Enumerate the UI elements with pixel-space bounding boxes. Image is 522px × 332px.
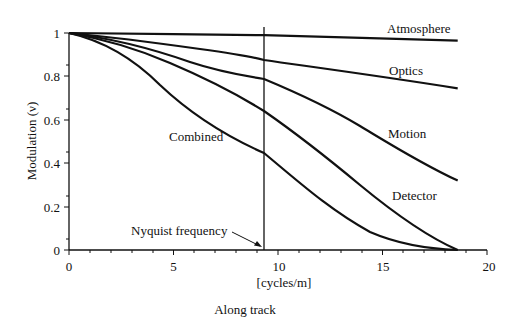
y-ticks	[64, 33, 69, 250]
x-tick-5: 5	[170, 259, 177, 274]
label-combined: Combined	[169, 129, 224, 144]
y-tick-0: 0	[54, 243, 61, 258]
y-axis-title: Modulation (ν)	[24, 102, 39, 180]
x-axis-title: [cycles/m]	[257, 275, 312, 290]
label-optics: Optics	[389, 63, 423, 78]
x-tick-10: 10	[273, 259, 286, 274]
y-tick-1: 1	[54, 26, 61, 41]
y-tick-0.6: 0.6	[44, 113, 61, 128]
x-tick-0: 0	[66, 259, 73, 274]
y-tick-0.4: 0.4	[44, 156, 61, 171]
label-atmosphere: Atmosphere	[387, 21, 451, 36]
x-tick-15: 15	[377, 259, 390, 274]
chart-caption: Along track	[214, 302, 276, 317]
y-tick-0.2: 0.2	[44, 200, 60, 215]
label-motion: Motion	[388, 126, 427, 141]
arrow-head-icon	[254, 241, 262, 247]
label-nyquist: Nyquist frequency	[131, 223, 228, 238]
x-tick-20: 20	[483, 259, 496, 274]
x-ticks	[69, 250, 487, 255]
modulation-chart: 0 0.2 0.4 0.6 0.8 1 0 5 10 15 20 [cycles…	[0, 0, 522, 332]
label-detector: Detector	[392, 188, 437, 203]
y-tick-0.8: 0.8	[44, 69, 60, 84]
